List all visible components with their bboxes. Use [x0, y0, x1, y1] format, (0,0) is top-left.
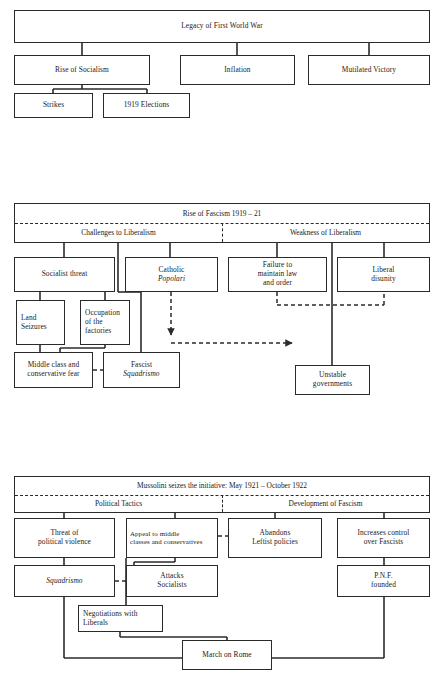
box-catholic-popolari[interactable]: Catholic Popolari — [125, 257, 218, 292]
flowchart-diagram: Legacy of First World War Rise of Social… — [0, 0, 441, 675]
box-unstable-governments[interactable]: Unstable governments — [295, 365, 370, 395]
box-label: Inflation — [224, 66, 250, 75]
box-label-line2: Socialists — [157, 581, 186, 590]
box-label-line2: classes and conservatives — [130, 538, 203, 546]
box-label-line2: Seizures — [21, 323, 47, 332]
box-label: Mutilated Victory — [342, 66, 396, 75]
box-legacy-of-first-world-war[interactable]: Legacy of First World War — [14, 10, 430, 43]
box-label: Legacy of First World War — [181, 22, 263, 31]
box-failure-to-maintain-law-and-order[interactable]: Failure to maintain law and order — [228, 257, 327, 292]
box-label-line2: conservative fear — [27, 370, 79, 379]
box-inflation[interactable]: Inflation — [180, 55, 295, 85]
banner-title: Rise of Fascism 1919 – 21 — [15, 204, 429, 223]
box-label-line1: Appeal to middle — [130, 530, 179, 538]
box-liberal-disunity[interactable]: Liberal disunity — [337, 257, 430, 292]
box-increases-control-over-fascists[interactable]: Increases control over Fascists — [337, 518, 430, 558]
box-threat-of-political-violence[interactable]: Threat of political violence — [14, 518, 115, 558]
box-label-line3: factories — [85, 327, 111, 336]
banner-title: Mussolini seizes the initiative: May 192… — [15, 477, 429, 495]
box-label: 1919 Elections — [124, 101, 170, 110]
box-occupation-of-the-factories[interactable]: Occupation of the factories — [80, 300, 130, 345]
box-label-line2: over Fascists — [364, 538, 404, 547]
banner-right-label: Weakness of Liberalism — [222, 223, 429, 242]
box-mutilated-victory[interactable]: Mutilated Victory — [308, 55, 430, 85]
box-1919-elections[interactable]: 1919 Elections — [103, 93, 190, 118]
box-label-line2: Liberals — [83, 619, 108, 628]
banner-left-label: Challenges to Liberalism — [15, 223, 222, 242]
banner-left-label: Political Tactics — [15, 495, 222, 513]
banner-right-label: Development of Fascism — [222, 495, 429, 513]
banner-mussolini-seizes-initiative: Mussolini seizes the initiative: May 192… — [14, 476, 430, 513]
box-squadrismo[interactable]: Squadrismo — [14, 565, 115, 597]
box-label-line2: governments — [313, 380, 352, 389]
box-rise-of-socialism[interactable]: Rise of Socialism — [14, 55, 150, 85]
box-land-seizures[interactable]: Land Seizures — [16, 300, 65, 345]
box-abandons-leftist-policies[interactable]: Abandons Leftist policies — [228, 518, 322, 558]
box-label: Socialist threat — [42, 270, 88, 279]
box-appeal-to-middle-classes[interactable]: Appeal to middle classes and conservativ… — [126, 518, 218, 558]
box-label: Strikes — [43, 101, 64, 110]
box-label-line2: Leftist policies — [252, 538, 298, 547]
box-strikes[interactable]: Strikes — [14, 93, 93, 118]
box-label-line2: Popolari — [158, 275, 185, 284]
box-middle-class-and-conservative-fear[interactable]: Middle class and conservative fear — [14, 352, 93, 388]
box-label-line2: political violence — [38, 538, 91, 547]
box-label-line3: and order — [263, 279, 292, 288]
box-label: Rise of Socialism — [55, 66, 109, 75]
box-attacks-socialists[interactable]: Attacks Socialists — [126, 565, 218, 597]
box-socialist-threat[interactable]: Socialist threat — [14, 257, 115, 292]
box-label-line2: disunity — [371, 275, 396, 284]
box-negotiations-with-liberals[interactable]: Negotiations with Liberals — [78, 605, 163, 632]
box-label: Squadrismo — [46, 577, 82, 586]
box-label-line2: founded — [371, 581, 396, 590]
box-label: March on Rome — [202, 651, 251, 660]
banner-rise-of-fascism: Rise of Fascism 1919 – 21 Challenges to … — [14, 203, 430, 243]
box-label-line2: Squadrismo — [123, 370, 159, 379]
box-march-on-rome[interactable]: March on Rome — [182, 640, 272, 670]
box-pnf-founded[interactable]: P.N.F. founded — [337, 565, 430, 597]
box-fascist-squadrismo[interactable]: Fascist Squadrismo — [103, 352, 180, 388]
